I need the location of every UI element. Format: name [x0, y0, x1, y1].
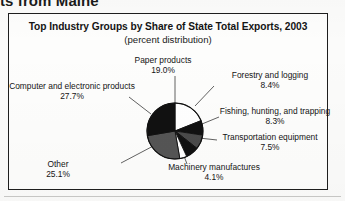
slice-label-computer-and-electronic-products: Computer and electronic products 27.7% [0, 81, 147, 101]
slice-label-text: Paper products [135, 55, 192, 65]
running-heading: ts from Maine [0, 0, 200, 8]
slice-label-value: 8.4% [205, 80, 335, 90]
figure-container: Top Industry Groups by Share of State To… [8, 13, 328, 190]
slice-label-forestry-and-logging: Forestry and logging 8.4% [205, 70, 335, 90]
slice-label-transportation-equipment: Transportation equipment 7.5% [205, 132, 335, 152]
slice-label-machinery-manufactures: Machinery manufactures 4.1% [149, 162, 279, 182]
slice-label-value: 19.0% [115, 65, 211, 75]
pie-slice [147, 103, 175, 136]
slice-label-paper-products: Paper products 19.0% [115, 55, 211, 75]
slice-label-text: Fishing, hunting, and trapping [220, 106, 330, 116]
slice-label-value: 7.5% [205, 142, 335, 152]
slice-label-value: 4.1% [149, 172, 279, 182]
page-divider-rule [4, 196, 341, 197]
slice-label-other: Other 25.1% [3, 159, 113, 179]
slice-label-text: Computer and electronic products [9, 81, 135, 91]
slice-label-text: Machinery manufactures [168, 162, 260, 172]
slice-label-text: Other [48, 159, 69, 169]
slice-label-fishing-hunting-trapping: Fishing, hunting, and trapping 8.3% [205, 106, 345, 126]
slice-label-text: Forestry and logging [232, 70, 308, 80]
slice-label-text: Transportation equipment [222, 132, 317, 142]
slice-label-value: 27.7% [0, 91, 147, 101]
slice-label-value: 25.1% [3, 169, 113, 179]
slice-label-value: 8.3% [205, 116, 345, 126]
pie-slices [147, 103, 203, 159]
